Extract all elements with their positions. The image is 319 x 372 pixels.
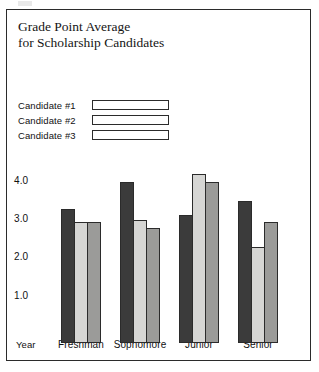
x-axis-title: Year — [16, 339, 36, 351]
bar-freshman-series-3[interactable] — [87, 222, 101, 343]
bar-sophomore-series-1[interactable] — [120, 182, 134, 343]
bar-freshman-series-1[interactable] — [61, 209, 75, 343]
bar-sophomore-series-2[interactable] — [133, 220, 147, 343]
bar-junior-series-1[interactable] — [179, 215, 193, 343]
plot-area: 4.03.02.01.0 FreshmanSophomoreJuniorSeni… — [7, 10, 312, 362]
chart-frame: Grade Point Average for Scholarship Cand… — [6, 9, 311, 361]
bar-freshman-series-2[interactable] — [74, 222, 88, 343]
bar-junior-series-3[interactable] — [205, 182, 219, 343]
bar-senior-series-2[interactable] — [251, 247, 265, 343]
bars-area — [7, 10, 312, 362]
bar-junior-series-2[interactable] — [192, 174, 206, 343]
bar-senior-series-1[interactable] — [238, 201, 252, 343]
scan-artifact — [18, 1, 32, 6]
bar-senior-series-3[interactable] — [264, 222, 278, 343]
chart-figure: Grade Point Average for Scholarship Cand… — [0, 0, 319, 372]
bar-sophomore-series-3[interactable] — [146, 228, 160, 343]
